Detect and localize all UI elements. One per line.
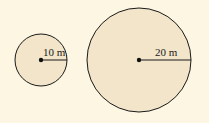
small-circle-group: 10 m: [15, 34, 67, 86]
two-circles-diagram: 10 m 20 m: [0, 0, 209, 123]
small-circle-radius-label: 10 m: [43, 46, 66, 58]
small-circle-center-dot: [39, 58, 43, 62]
large-circle-radius-label: 20 m: [155, 46, 178, 58]
large-circle-group: 20 m: [87, 8, 191, 112]
large-circle-center-dot: [137, 58, 141, 62]
